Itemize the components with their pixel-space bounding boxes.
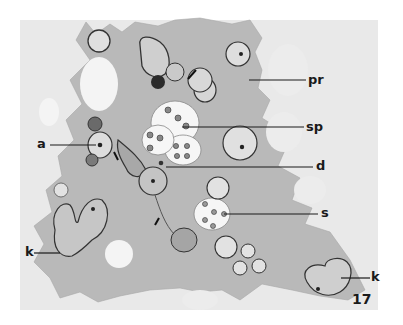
small-cell — [88, 30, 110, 52]
vacuole — [268, 44, 308, 96]
dividing-cell — [171, 228, 197, 252]
round-cell — [223, 126, 257, 160]
granule — [159, 161, 164, 166]
vacuole — [39, 98, 59, 126]
label-pr: pr — [308, 73, 324, 86]
label-sp: sp — [306, 120, 323, 133]
round-cell — [241, 244, 255, 258]
label-k-left: k — [25, 245, 34, 258]
round-cell — [252, 259, 266, 273]
round-cell — [226, 42, 250, 66]
vacuole — [105, 240, 133, 268]
vacuole — [294, 176, 326, 204]
round-cell — [215, 236, 237, 258]
nucleus — [239, 52, 243, 56]
dark-granule — [86, 154, 98, 166]
nucleus — [240, 145, 244, 149]
small-cell — [54, 183, 68, 197]
vacuole — [80, 57, 118, 111]
nucleus — [151, 179, 155, 183]
figure-number: 17 — [352, 292, 371, 306]
round-cell — [188, 68, 212, 92]
nucleus — [91, 207, 95, 211]
label-d: d — [316, 159, 325, 172]
dark-granule — [88, 117, 102, 131]
dark-granule — [151, 75, 165, 89]
vacuole — [182, 290, 218, 310]
round-cell — [233, 261, 247, 275]
label-s: s — [321, 206, 329, 219]
micrograph-drawing — [0, 0, 403, 325]
label-a: a — [37, 137, 46, 150]
round-cell — [207, 177, 229, 199]
nucleus — [98, 143, 103, 148]
vacuole — [266, 112, 302, 152]
nucleus — [316, 287, 320, 291]
spotted-cell — [166, 63, 184, 81]
label-k-right: k — [371, 270, 380, 283]
